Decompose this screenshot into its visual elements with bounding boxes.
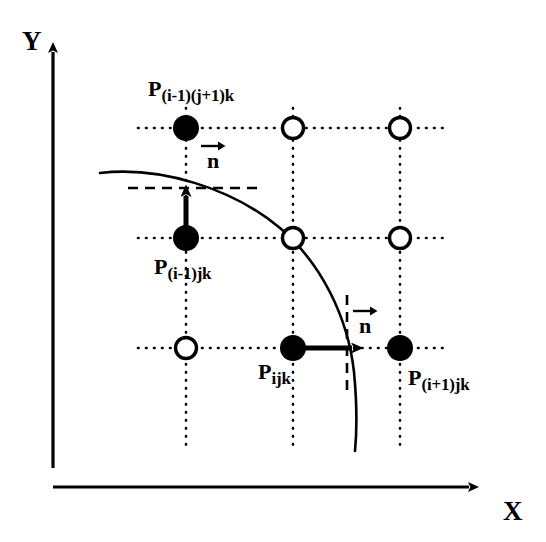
point-label-base: P — [408, 365, 421, 390]
node-r1-c2 — [390, 228, 411, 249]
point-label-p-ip1-j-k: P(i+1)jk — [408, 367, 469, 393]
point-label-p-im1-j-k: P(i-1)jk — [154, 256, 211, 282]
diagram-vector-layer — [0, 0, 546, 542]
normal-vector-lower-label: n — [352, 305, 378, 337]
node-r0-c1 — [283, 118, 304, 139]
node-r0-c2 — [390, 118, 411, 139]
x-axis-label: X — [503, 498, 523, 525]
point-label-subscript: ijk — [271, 369, 290, 388]
normal-vector-glyph: n — [352, 315, 378, 337]
node-r1-c1 — [283, 228, 304, 249]
point-label-base: P — [154, 254, 167, 279]
point-label-subscript: (i-1)jk — [167, 264, 211, 283]
tangent-markers — [128, 188, 347, 391]
node-r2-c2 — [387, 335, 413, 361]
node-r2-c0 — [176, 338, 197, 359]
point-label-base: P — [258, 359, 271, 384]
node-r2-c1 — [280, 335, 306, 361]
point-label-p-ijk: Pijk — [258, 361, 291, 387]
y-axis-label: Y — [22, 28, 42, 55]
point-label-subscript: (i+1)jk — [421, 375, 469, 394]
normal-vector-glyph: n — [200, 150, 226, 172]
interface-curve — [100, 172, 356, 451]
node-r0-c0 — [173, 115, 199, 141]
point-label-subscript: (i-1)(j+1)k — [161, 86, 234, 105]
normal-vector-upper-label: n — [200, 140, 226, 172]
diagram-canvas: Y X P(i-1)(j+1)k P(i-1)jk Pijk P(i+1)jk … — [0, 0, 546, 542]
point-label-p-im1-jp1-k: P(i-1)(j+1)k — [148, 78, 234, 104]
node-r1-c0 — [173, 225, 199, 251]
axis-lines — [53, 52, 469, 487]
point-label-base: P — [148, 76, 161, 101]
